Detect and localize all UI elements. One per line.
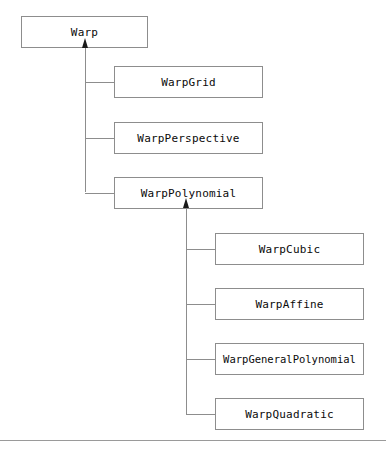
footer-rule: [0, 440, 386, 441]
connector-level2-WarpCubic: [186, 249, 215, 250]
class-name-label: WarpPerspective: [137, 133, 239, 144]
class-name-label: WarpQuadratic: [245, 409, 334, 420]
class-box-WarpGeneralPolynomial: WarpGeneralPolynomial: [215, 343, 364, 375]
inheritance-arrow-to-WarpPolynomial: [183, 198, 189, 208]
class-name-label: WarpGrid: [161, 77, 216, 88]
class-name-label: WarpCubic: [259, 244, 320, 255]
class-hierarchy-diagram: WarpWarpGridWarpPerspectiveWarpPolynomia…: [0, 0, 386, 451]
inheritance-trunk-level2: [186, 208, 187, 414]
class-name-label: WarpGeneralPolynomial: [223, 354, 356, 365]
class-box-WarpAffine: WarpAffine: [215, 288, 364, 320]
connector-level1-WarpPolynomial: [85, 193, 114, 194]
class-box-WarpQuadratic: WarpQuadratic: [215, 398, 364, 430]
connector-level1-WarpGrid: [85, 82, 114, 83]
connector-level2-WarpGeneralPolynomial: [186, 359, 215, 360]
inheritance-trunk-level1: [85, 48, 86, 192]
connector-level1-WarpPerspective: [85, 138, 114, 139]
connector-level2-WarpAffine: [186, 304, 215, 305]
connector-level2-WarpQuadratic: [186, 414, 215, 415]
class-box-WarpPerspective: WarpPerspective: [114, 122, 263, 154]
class-box-WarpCubic: WarpCubic: [215, 233, 364, 265]
class-name-label: Warp: [71, 27, 98, 38]
class-name-label: WarpAffine: [255, 299, 323, 310]
class-box-WarpGrid: WarpGrid: [114, 66, 263, 98]
class-name-label: WarpPolynomial: [141, 188, 237, 199]
inheritance-arrow-to-Warp: [82, 38, 88, 48]
